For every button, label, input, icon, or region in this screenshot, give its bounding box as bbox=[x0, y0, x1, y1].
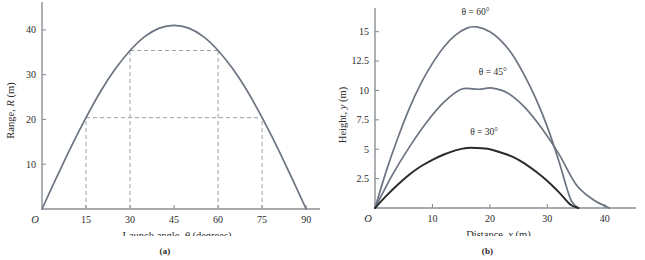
x-axis-label: Distance, x (m) bbox=[466, 229, 531, 236]
chart-panel-b: 2.557.51012.515O10203040 θ = 60°θ = 45°θ… bbox=[330, 0, 645, 260]
x-tick-label: 40 bbox=[600, 213, 610, 224]
tick-labels-b: 2.557.51012.515O10203040 bbox=[352, 26, 610, 224]
x-axis-label: Launch angle, θ (degrees) bbox=[123, 230, 232, 236]
x-tick-label: 20 bbox=[485, 213, 495, 224]
y-tick-label: 12.5 bbox=[352, 55, 370, 66]
x-tick-label: 60 bbox=[213, 214, 223, 225]
y-tick-label: 15 bbox=[359, 26, 369, 37]
y-tick-label: 7.5 bbox=[357, 114, 370, 125]
x-tick-label: 15 bbox=[81, 214, 91, 225]
y-tick-label: 10 bbox=[359, 85, 369, 96]
y-tick-label: 2.5 bbox=[357, 173, 370, 184]
axes-a bbox=[42, 2, 320, 209]
origin-label: O bbox=[364, 213, 372, 224]
axes-b bbox=[375, 8, 636, 208]
axis-labels-a: Launch angle, θ (degrees)Range, R (m) bbox=[5, 82, 232, 236]
origin-label: O bbox=[31, 214, 39, 225]
chart-panel-a: 10203040O153045607590 Launch angle, θ (d… bbox=[0, 0, 330, 260]
panel-b-caption: (b) bbox=[330, 246, 645, 256]
x-tick-label: 10 bbox=[427, 213, 437, 224]
y-axis-label: Range, R (m) bbox=[5, 82, 17, 139]
x-tick-label: 30 bbox=[542, 213, 552, 224]
y-tick-label: 20 bbox=[26, 114, 36, 125]
projectile-motion-figure: 10203040O153045607590 Launch angle, θ (d… bbox=[0, 0, 645, 260]
curve-range-vs-launch-angle bbox=[42, 25, 306, 209]
curve--30- bbox=[375, 148, 578, 208]
height-vs-distance-chart: 2.557.51012.515O10203040 θ = 60°θ = 45°θ… bbox=[330, 0, 645, 236]
y-tick-label: 30 bbox=[26, 69, 36, 80]
y-tick-label: 40 bbox=[26, 24, 36, 35]
tick-labels-a: 10203040O153045607590 bbox=[26, 24, 311, 225]
y-tick-label: 10 bbox=[26, 159, 36, 170]
range-vs-angle-chart: 10203040O153045607590 Launch angle, θ (d… bbox=[0, 0, 330, 236]
y-axis-label: Height, y (m) bbox=[337, 86, 349, 143]
series-a bbox=[42, 25, 306, 209]
curve-label: θ = 45° bbox=[479, 67, 507, 77]
x-tick-label: 75 bbox=[257, 214, 267, 225]
x-tick-label: 30 bbox=[125, 214, 135, 225]
series-b bbox=[375, 27, 609, 208]
x-tick-label: 45 bbox=[169, 214, 179, 225]
panel-a-caption: (a) bbox=[0, 246, 330, 256]
curve-label: θ = 30° bbox=[470, 127, 498, 137]
curve-labels-b: θ = 60°θ = 45°θ = 30° bbox=[462, 7, 507, 137]
x-tick-label: 90 bbox=[301, 214, 311, 225]
y-tick-label: 5 bbox=[364, 144, 369, 155]
curve-label: θ = 60° bbox=[462, 7, 490, 17]
